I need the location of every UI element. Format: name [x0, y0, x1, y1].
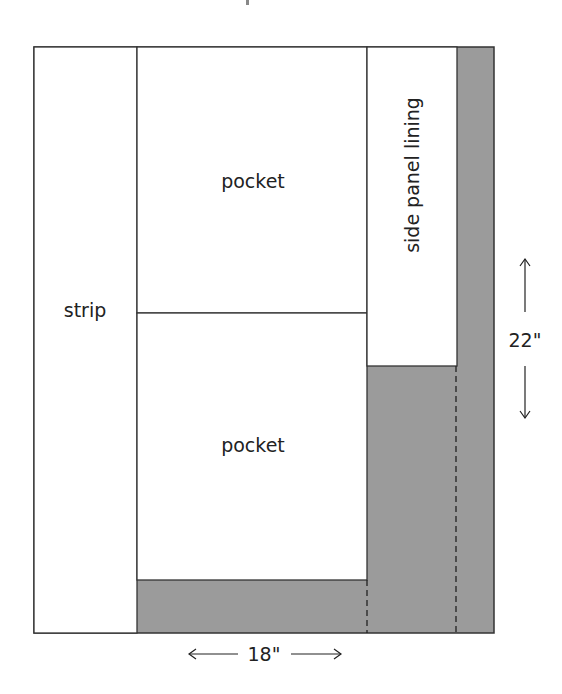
cropped-title-remnant — [246, 0, 249, 5]
strip-piece — [34, 47, 137, 633]
pocket-top-label: pocket — [221, 170, 285, 192]
width-dimension: 18" — [189, 643, 341, 665]
cutting-layout-diagram: strip pocket pocket side panel lining 18… — [0, 0, 562, 694]
height-dimension: 22" — [509, 259, 542, 418]
grey-bottom-fabric — [137, 580, 367, 633]
width-label: 18" — [248, 643, 281, 665]
grey-right-fabric — [457, 47, 494, 633]
pocket-bottom-label: pocket — [221, 434, 285, 456]
grey-side-fabric — [367, 366, 457, 633]
height-label: 22" — [509, 329, 542, 351]
strip-label: strip — [64, 299, 107, 321]
side-panel-lining-label: side panel lining — [401, 97, 423, 253]
